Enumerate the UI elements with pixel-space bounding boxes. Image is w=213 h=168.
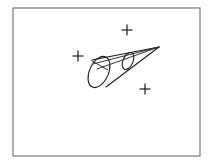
- cone-illustration-canvas: [0, 0, 213, 168]
- illustration-border: [13, 8, 200, 156]
- figure-root: Cone line drawing with registration mark…: [0, 0, 213, 168]
